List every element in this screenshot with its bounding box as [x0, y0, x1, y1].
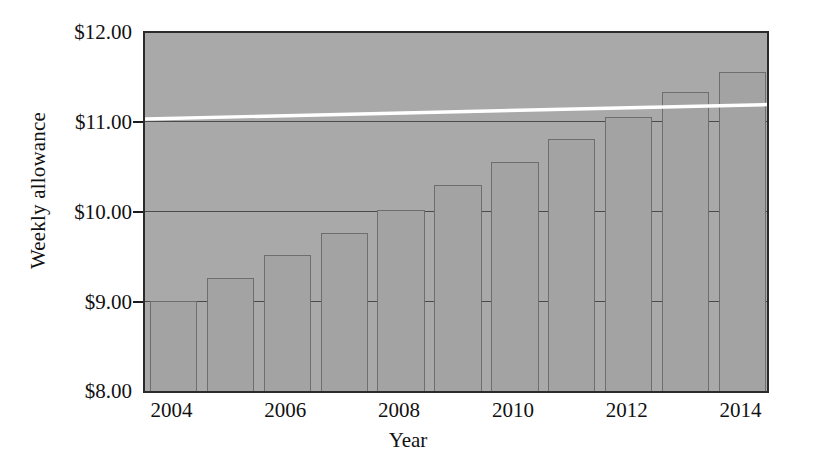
bar-2014 [719, 72, 766, 391]
y-tick-mark-10 [133, 211, 143, 213]
y-tick-label-8: $8.00 [32, 379, 132, 404]
x-tick-label-2004: 2004 [126, 398, 216, 423]
y-tick-label-9: $9.00 [32, 290, 132, 315]
bar-2005 [207, 278, 254, 391]
y-tick-label-11: $11.00 [32, 110, 132, 135]
y-tick-mark-9 [133, 301, 143, 303]
y-tick-mark-11 [133, 121, 143, 123]
y-tick-label-12: $12.00 [32, 20, 132, 45]
y-axis-tick-labels: $12.00 $11.00 $10.00 $9.00 $8.00 [28, 0, 132, 471]
bar-2011 [548, 139, 595, 391]
x-tick-label-2010: 2010 [468, 398, 558, 423]
x-tick-label-2012: 2012 [582, 398, 672, 423]
bar-2012 [605, 117, 652, 391]
bar-2010 [491, 162, 538, 391]
x-tick-label-2014: 2014 [696, 398, 786, 423]
plot-area [143, 31, 769, 393]
bar-chart: Weekly allowance $12.00 $11.00 $10.00 $9… [0, 0, 816, 471]
x-tick-label-2006: 2006 [240, 398, 330, 423]
bar-2008 [377, 210, 424, 391]
x-tick-label-2008: 2008 [354, 398, 444, 423]
bar-2009 [434, 185, 481, 391]
y-tick-label-10: $10.00 [32, 200, 132, 225]
bar-2013 [662, 92, 709, 391]
bar-2007 [321, 233, 368, 391]
x-axis-title: Year [0, 428, 816, 453]
bar-2004 [150, 301, 197, 392]
bar-2006 [264, 255, 311, 391]
